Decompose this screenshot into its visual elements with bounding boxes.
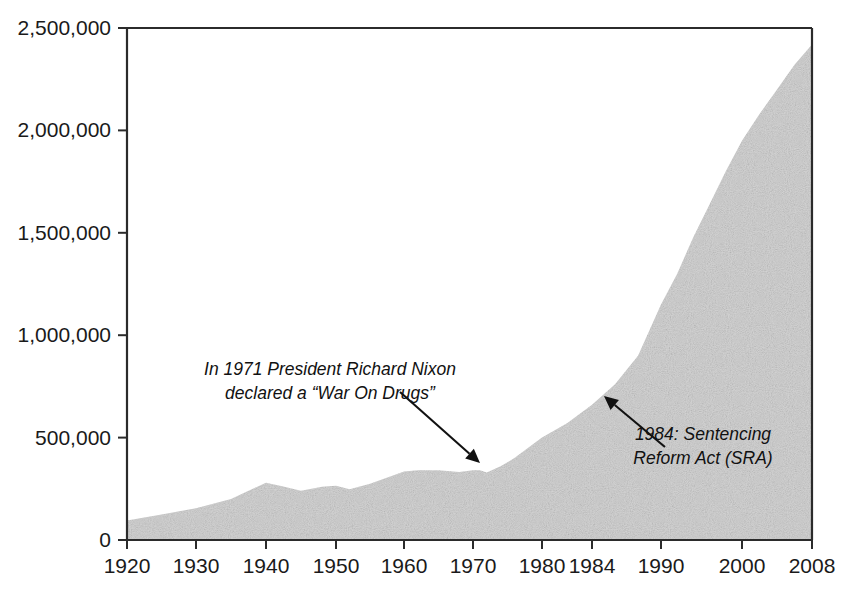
- x-tick-label: 1940: [243, 554, 290, 577]
- x-tick-label: 1980: [519, 554, 566, 577]
- chart-canvas: 0500,0001,000,0001,500,0002,000,0002,500…: [0, 0, 848, 590]
- y-tick-label: 0: [99, 528, 111, 551]
- annotation-label: In 1971 President Richard Nixondeclared …: [204, 359, 456, 403]
- x-tick-label: 2000: [719, 554, 766, 577]
- annotation-nixon-war-on-drugs: In 1971 President Richard Nixondeclared …: [204, 359, 480, 463]
- y-axis-ticks: [118, 28, 127, 540]
- x-tick-label: 1950: [313, 554, 360, 577]
- prison-population-area-chart: 0500,0001,000,0001,500,0002,000,0002,500…: [0, 0, 848, 590]
- y-tick-label: 2,000,000: [18, 118, 111, 141]
- x-tick-label: 1970: [450, 554, 497, 577]
- y-tick-label: 1,500,000: [18, 221, 111, 244]
- x-tick-label: 1930: [173, 554, 220, 577]
- x-tick-label: 1960: [381, 554, 428, 577]
- y-tick-label: 1,000,000: [18, 323, 111, 346]
- x-tick-label: 1984: [569, 554, 616, 577]
- x-tick-label: 1920: [104, 554, 151, 577]
- y-axis-tick-labels: 0500,0001,000,0001,500,0002,000,0002,500…: [18, 16, 111, 551]
- x-tick-label: 2008: [789, 554, 836, 577]
- x-axis-ticks: [127, 540, 812, 549]
- y-tick-label: 500,000: [35, 426, 111, 449]
- y-tick-label: 2,500,000: [18, 16, 111, 39]
- x-axis-tick-labels: 1920193019401950196019701980198419902000…: [104, 554, 836, 577]
- x-tick-label: 1990: [638, 554, 685, 577]
